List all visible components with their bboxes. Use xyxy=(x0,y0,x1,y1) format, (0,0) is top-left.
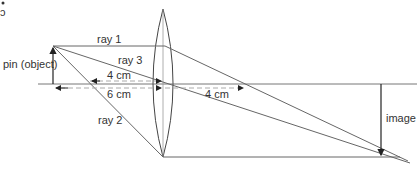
label-object-distance: 6 cm xyxy=(107,88,131,100)
label-object: pin (object) xyxy=(3,58,57,70)
label-image: image xyxy=(386,112,416,124)
ray-3 xyxy=(53,46,410,163)
ray-diagram: ɔ ray 1 pin (object) ray 3 4 cm 6 cm 4 c… xyxy=(0,0,417,173)
label-focal-right: 4 cm xyxy=(205,88,229,100)
label-focal-left: 4 cm xyxy=(107,69,131,81)
svg-text:ɔ: ɔ xyxy=(0,6,6,18)
stray-mark: ɔ xyxy=(0,2,6,19)
label-ray-1: ray 1 xyxy=(97,33,121,45)
label-ray-3: ray 3 xyxy=(118,54,142,66)
label-ray-2: ray 2 xyxy=(98,114,122,126)
